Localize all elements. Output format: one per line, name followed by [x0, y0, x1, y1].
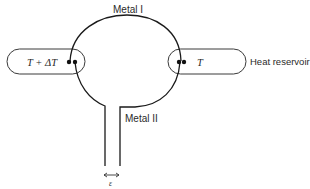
metal-two-label: Metal II [125, 113, 158, 124]
gap-arrow-icon [104, 173, 119, 177]
hot-reservoir-temp-label: T + ΔT [27, 57, 58, 68]
cold-reservoir-temp-label: T [197, 57, 204, 68]
hot-junction-dot [67, 60, 71, 64]
thermocouple-diagram: Metal I Metal II T + ΔT T Heat reservoir… [0, 0, 310, 189]
metal-one-label: Metal I [113, 4, 143, 15]
metal-one-wire [70, 15, 181, 61]
metal-two-wire-left [75, 62, 105, 166]
cold-junction-dot [177, 60, 181, 64]
gap-label: ε [109, 179, 112, 188]
heat-reservoir-caption: Heat reservoir [250, 56, 310, 67]
hot-junction-dot [73, 60, 77, 64]
cold-junction-dot [182, 60, 186, 64]
